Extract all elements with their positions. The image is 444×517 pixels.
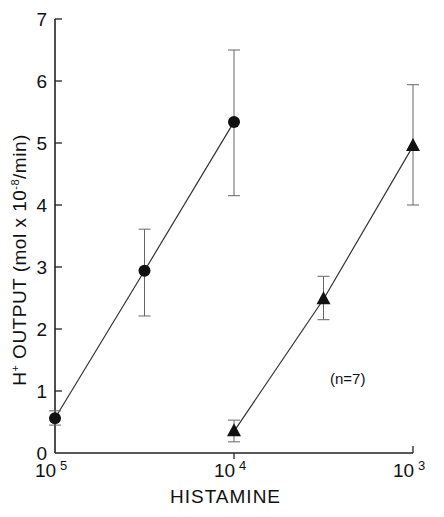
chart-canvas: 01234567105104103 bbox=[0, 0, 444, 517]
y-axis-label: H+ OUTPUT (mol x 10-8/min) bbox=[9, 134, 31, 386]
x-tick-label: 10 bbox=[393, 460, 414, 481]
x-tick-exponent: 3 bbox=[418, 458, 425, 473]
x-tick-exponent: 4 bbox=[239, 458, 246, 473]
x-axis-label: HISTAMINE bbox=[170, 486, 281, 508]
y-tick-label: 5 bbox=[36, 133, 47, 154]
y-tick-label: 4 bbox=[36, 195, 47, 216]
x-tick-label: 10 bbox=[214, 460, 235, 481]
data-point-triangle bbox=[317, 291, 331, 304]
y-tick-label: 7 bbox=[36, 9, 47, 30]
x-tick-label: 10 bbox=[35, 460, 56, 481]
data-point-circle bbox=[228, 116, 240, 128]
x-tick-exponent: 5 bbox=[60, 458, 67, 473]
y-tick-label: 2 bbox=[36, 319, 47, 340]
y-tick-label: 3 bbox=[36, 257, 47, 278]
data-point-triangle bbox=[406, 138, 420, 151]
sample-size-annotation: (n=7) bbox=[330, 370, 365, 387]
data-point-triangle bbox=[227, 423, 241, 436]
y-tick-label: 1 bbox=[36, 381, 47, 402]
y-tick-label: 6 bbox=[36, 71, 47, 92]
data-point-circle bbox=[139, 265, 151, 277]
data-point-circle bbox=[49, 412, 61, 424]
